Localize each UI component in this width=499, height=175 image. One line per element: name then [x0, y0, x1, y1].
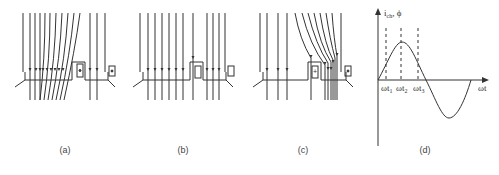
caption-a: (a)	[50, 145, 80, 155]
tick-wt2: ωt2	[396, 83, 407, 94]
x-axis-label: ωt	[478, 83, 487, 93]
caption-d: (d)	[410, 145, 440, 155]
caption-c: (c)	[288, 145, 318, 155]
svg-text:+: +	[313, 68, 317, 75]
panel-a-diagram	[15, 13, 115, 100]
caption-b: (b)	[168, 145, 198, 155]
y-axis-label: ich, ϕ	[384, 8, 402, 19]
tick-wt1: ωt1	[381, 83, 392, 94]
panel-b-diagram	[133, 13, 234, 100]
panel-c-diagram: +	[253, 13, 353, 100]
y-axis-arrow-icon	[375, 8, 381, 15]
tick-wt3: ωt3	[413, 83, 424, 94]
panel-d-graph	[375, 8, 489, 146]
